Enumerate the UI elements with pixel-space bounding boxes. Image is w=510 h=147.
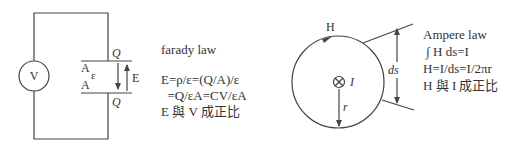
top-charge-label: Q <box>112 46 121 60</box>
voltage-label: V <box>30 69 39 83</box>
circuit-wire <box>34 13 108 61</box>
segment-line-bottom <box>382 100 414 110</box>
bottom-charge-label: Q <box>112 95 121 109</box>
circuit-wire-bottom <box>34 91 108 139</box>
field-loop <box>292 36 384 128</box>
radius-label: r <box>343 100 348 114</box>
h-label: H <box>326 20 335 34</box>
bottom-area-label: A <box>81 78 90 92</box>
faraday-eq-1: E=ρ/ε=(Q/A)/ε <box>161 72 239 88</box>
ds-label: ds <box>388 63 399 77</box>
top-area-label: A <box>81 61 90 75</box>
field-e-label: E <box>132 71 139 85</box>
ampere-eq-1: ∫ H ds=I <box>423 44 469 60</box>
faraday-conclusion: E 與 V 成正比 <box>161 104 240 120</box>
permittivity-label: ε <box>91 69 96 81</box>
segment-line-top <box>363 24 413 43</box>
faraday-title: farady law <box>161 42 216 58</box>
faraday-eq-2: =Q/εA=CV/εA <box>161 88 247 104</box>
current-label: I <box>349 75 355 89</box>
ampere-eq-2: H=I/ds=I/2πr <box>423 61 492 77</box>
ampere-conclusion: H 與 I 成正比 <box>423 78 498 94</box>
ampere-title: Ampere law <box>423 27 487 43</box>
